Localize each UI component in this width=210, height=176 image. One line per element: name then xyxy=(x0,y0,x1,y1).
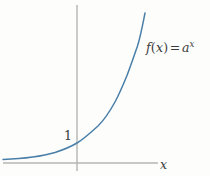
curve-equation-label: f(x)=ax xyxy=(146,40,195,55)
exponential-curve xyxy=(3,13,145,160)
plot-canvas xyxy=(0,0,210,176)
x-axis-label: x xyxy=(160,159,167,172)
equals-sign: = xyxy=(168,40,182,55)
y-intercept-tick-label: 1 xyxy=(64,130,72,143)
base-a: a xyxy=(182,40,190,55)
exponential-function-figure: f(x)=ax 1 x xyxy=(0,0,210,176)
exponent-x: x xyxy=(190,39,195,49)
